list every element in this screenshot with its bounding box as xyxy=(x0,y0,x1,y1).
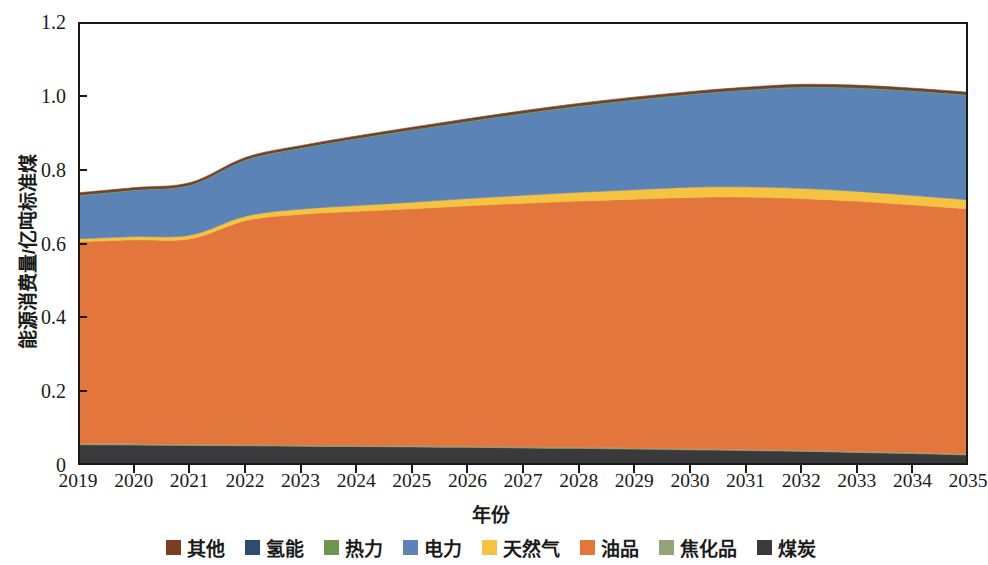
x-tick-label: 2028 xyxy=(559,470,598,492)
area-series-油品 xyxy=(80,197,966,454)
legend-item-油品[interactable]: 油品 xyxy=(580,534,639,561)
legend-item-电力[interactable]: 电力 xyxy=(403,534,462,561)
legend-label: 煤炭 xyxy=(778,534,816,561)
y-tick-mark xyxy=(78,243,87,245)
legend-label: 电力 xyxy=(424,534,462,561)
y-tick-label: 0.4 xyxy=(0,306,66,329)
legend-item-热力[interactable]: 热力 xyxy=(324,534,383,561)
x-tick-label: 2030 xyxy=(670,470,709,492)
stacked-areas xyxy=(80,24,966,463)
legend-swatch-icon xyxy=(757,540,772,555)
x-tick-label: 2021 xyxy=(170,470,209,492)
y-tick-mark xyxy=(78,316,87,318)
x-tick-label: 2032 xyxy=(782,470,821,492)
plot-area xyxy=(78,22,968,465)
legend-swatch-icon xyxy=(580,540,595,555)
legend-label: 油品 xyxy=(601,534,639,561)
y-tick-mark xyxy=(78,390,87,392)
legend-swatch-icon xyxy=(403,540,418,555)
legend-swatch-icon xyxy=(482,540,497,555)
legend-label: 焦化品 xyxy=(680,534,737,561)
y-tick-mark xyxy=(78,95,87,97)
legend-item-焦化品[interactable]: 焦化品 xyxy=(659,534,737,561)
x-tick-label: 2024 xyxy=(337,470,376,492)
legend-label: 天然气 xyxy=(503,534,560,561)
x-tick-label: 2026 xyxy=(448,470,487,492)
y-tick-label: 1.0 xyxy=(0,84,66,107)
x-axis-tick-labels: 2019202020212022202320242025202620272028… xyxy=(78,470,968,496)
x-tick-label: 2033 xyxy=(837,470,876,492)
legend-label: 其他 xyxy=(187,534,225,561)
legend-swatch-icon xyxy=(324,540,339,555)
x-tick-label: 2034 xyxy=(893,470,932,492)
legend-item-煤炭[interactable]: 煤炭 xyxy=(757,534,816,561)
x-tick-label: 2029 xyxy=(615,470,654,492)
legend-item-氢能[interactable]: 氢能 xyxy=(245,534,304,561)
x-tick-label: 2035 xyxy=(949,470,988,492)
y-tick-label: 0.6 xyxy=(0,232,66,255)
y-tick-label: 0.2 xyxy=(0,380,66,403)
legend-label: 热力 xyxy=(345,534,383,561)
y-tick-label: 0.8 xyxy=(0,158,66,181)
x-tick-label: 2027 xyxy=(504,470,543,492)
legend-item-其他[interactable]: 其他 xyxy=(166,534,225,561)
x-axis-title: 年份 xyxy=(0,500,981,527)
legend-item-天然气[interactable]: 天然气 xyxy=(482,534,560,561)
y-tick-mark xyxy=(78,169,87,171)
legend-label: 氢能 xyxy=(266,534,304,561)
legend-swatch-icon xyxy=(245,540,260,555)
legend-swatch-icon xyxy=(659,540,674,555)
chart-legend: 其他氢能热力电力天然气油品焦化品煤炭 xyxy=(0,534,981,561)
x-tick-label: 2023 xyxy=(281,470,320,492)
x-tick-label: 2025 xyxy=(392,470,431,492)
x-tick-label: 2020 xyxy=(114,470,153,492)
y-tick-label: 0 xyxy=(0,454,66,477)
y-tick-label: 1.2 xyxy=(0,11,66,34)
legend-swatch-icon xyxy=(166,540,181,555)
x-tick-label: 2031 xyxy=(726,470,765,492)
x-tick-label: 2022 xyxy=(225,470,264,492)
